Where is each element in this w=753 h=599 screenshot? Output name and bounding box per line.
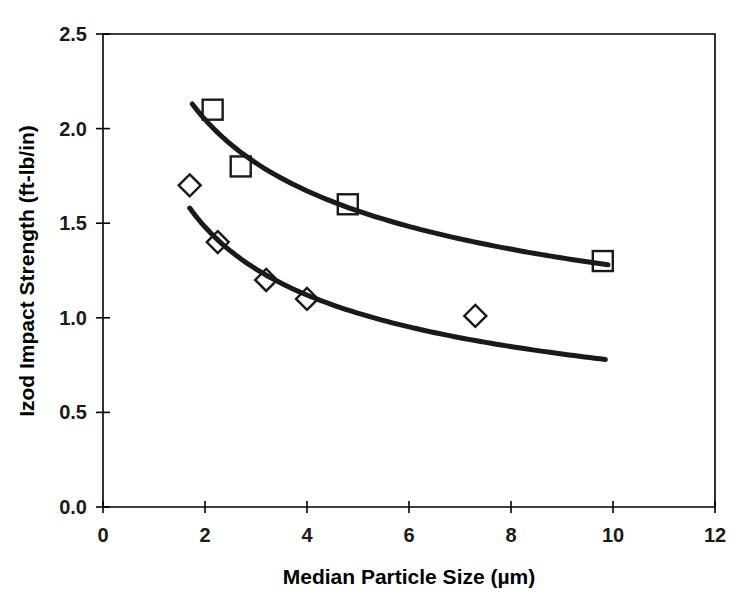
y-axis-title: Izod Impact Strength (ft-lb/in) bbox=[15, 125, 38, 417]
trend-curves bbox=[190, 104, 608, 359]
y-tick-label: 1.0 bbox=[59, 307, 87, 329]
y-tick-label: 0.5 bbox=[59, 401, 87, 423]
x-tick-label: 8 bbox=[505, 524, 516, 546]
y-tick-label: 0.0 bbox=[59, 496, 87, 518]
data-point-diamond bbox=[179, 174, 201, 196]
y-tick-label: 2.5 bbox=[59, 23, 87, 45]
x-tick-label: 10 bbox=[602, 524, 624, 546]
data-point-diamond bbox=[464, 305, 486, 327]
trend-curve-upper-series bbox=[192, 104, 608, 265]
x-tick-label: 12 bbox=[704, 524, 726, 546]
x-axis-title: Median Particle Size (µm) bbox=[283, 565, 536, 588]
x-tick-label: 6 bbox=[403, 524, 414, 546]
x-tick-label: 4 bbox=[301, 524, 313, 546]
y-axis-tick-labels: 0.00.51.01.52.02.5 bbox=[59, 23, 87, 518]
x-tick-label: 2 bbox=[199, 524, 210, 546]
trend-curve-lower-series bbox=[190, 208, 606, 359]
chart-container: 024681012 0.00.51.01.52.02.5 Median Part… bbox=[0, 0, 753, 599]
x-axis-tick-labels: 024681012 bbox=[97, 524, 726, 546]
y-tick-label: 1.5 bbox=[59, 212, 87, 234]
y-tick-label: 2.0 bbox=[59, 118, 87, 140]
scatter-plot: 024681012 0.00.51.01.52.02.5 Median Part… bbox=[0, 0, 753, 599]
data-markers bbox=[179, 100, 613, 327]
x-tick-label: 0 bbox=[97, 524, 108, 546]
